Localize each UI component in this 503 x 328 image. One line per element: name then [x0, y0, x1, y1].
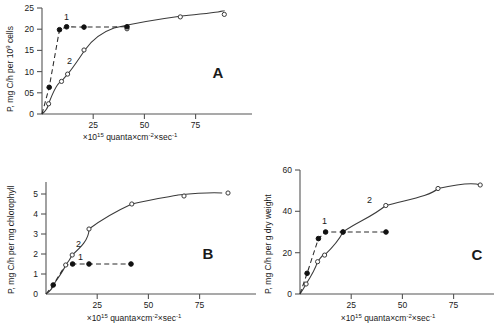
panel-b-ytick-5: 5 — [33, 189, 38, 199]
panel-a-xtick-50: 50 — [140, 120, 150, 130]
panel-a-curve-1-line — [42, 27, 127, 114]
x-title-mid: quanta×cm — [362, 313, 407, 323]
panel-a-ytick-05: 05 — [25, 88, 35, 98]
panel-b-curve-1-line — [46, 264, 131, 294]
panel-a-ytick-10: 10 — [25, 67, 35, 77]
panel-c-y-ticks — [295, 170, 300, 294]
x-title-mid: quanta×cm — [104, 132, 149, 142]
panel-b-x-ticks — [97, 294, 199, 299]
x-title-prefix: ×10 — [83, 132, 98, 142]
panel-b-letter: B — [203, 245, 214, 262]
panel-c-curve-1-points — [305, 230, 389, 276]
panel-b-y-ticks — [41, 194, 46, 274]
panel-a: 0 05 10 15 20 25 25 50 75 ×1015 quanta×c… — [0, 0, 260, 148]
panel-a-curve-2-points — [47, 12, 227, 106]
panel-c-ytick-60: 60 — [283, 165, 293, 175]
panel-c-xtick-50: 50 — [398, 300, 408, 310]
panel-a-curve-label-2: 2 — [67, 56, 72, 66]
panel-b-curve-2-line — [46, 193, 222, 294]
panel-c-ytick-40: 40 — [283, 206, 293, 216]
panel-b-ytick-3: 3 — [33, 229, 38, 239]
panel-a-curve-label-1: 1 — [64, 12, 69, 22]
figure-photosynthesis-light-curves: 0 05 10 15 20 25 25 50 75 ×1015 quanta×c… — [0, 0, 503, 328]
panel-c-ytick-0: 0 — [287, 289, 292, 299]
panel-c-curve-2-line — [300, 184, 480, 294]
panel-b-curve-label-2: 2 — [76, 239, 81, 249]
panel-c-curve-label-1: 1 — [322, 216, 327, 226]
x-title-mid: quanta×cm — [108, 313, 153, 323]
x-title-prefix: ×10 — [87, 313, 102, 323]
panel-b-xtick-50: 50 — [144, 300, 154, 310]
panel-a-ytick-15: 15 — [25, 45, 35, 55]
y-title-tail: cells — [5, 26, 15, 45]
x-title-exp3: -1 — [172, 132, 178, 138]
x-title-exp3: -1 — [430, 313, 436, 319]
x-title-exp3: -1 — [176, 313, 182, 319]
panel-c-x-axis-title: ×1015 quanta×cm-2×sec-1 — [341, 313, 436, 324]
panel-a-x-axis-title: ×1015 quanta×cm-2×sec-1 — [83, 132, 178, 143]
panel-c: 0 20 40 60 25 50 75 ×1015 quanta×cm-2×se… — [262, 160, 503, 328]
panel-b: 0 1 2 3 4 5 25 50 75 ×1015 quanta×cm-2×s… — [0, 160, 268, 328]
panel-b-curve-label-1: 1 — [78, 252, 83, 262]
x-title-prefix: ×10 — [341, 313, 356, 323]
panel-b-y-axis-title: P, mg C/h per mg chlorophyll — [6, 185, 16, 294]
panel-b-xtick-25: 25 — [92, 300, 102, 310]
panel-c-curve-2-points — [304, 183, 482, 286]
panel-b-ytick-4: 4 — [33, 209, 38, 219]
panel-c-letter: C — [472, 246, 483, 263]
panel-a-y-ticks — [37, 8, 42, 114]
panel-b-ytick-0: 0 — [33, 289, 38, 299]
panel-a-x-ticks — [93, 114, 195, 119]
panel-a-xtick-75: 75 — [191, 120, 201, 130]
panel-a-ytick-20: 20 — [25, 24, 35, 34]
x-title-mid2: ×sec — [412, 313, 431, 323]
panel-c-y-axis-title: P, mg C/h per g dry weight — [263, 194, 273, 294]
panel-c-x-ticks — [351, 294, 453, 299]
panel-c-curve-label-2: 2 — [367, 195, 372, 205]
x-title-mid2: ×sec — [158, 313, 177, 323]
panel-b-ytick-2: 2 — [33, 249, 38, 259]
panel-a-ytick-25: 25 — [25, 3, 35, 13]
panel-b-ytick-1: 1 — [33, 269, 38, 279]
panel-a-letter: A — [213, 64, 224, 81]
panel-a-xtick-25: 25 — [88, 120, 98, 130]
panel-c-curve-1-line — [300, 232, 386, 294]
x-title-mid2: ×sec — [154, 132, 173, 142]
panel-b-x-axis-title: ×1015 quanta×cm-2×sec-1 — [87, 313, 182, 324]
panel-a-y-axis-title: P, mg C/h per 109 cells — [5, 26, 16, 112]
y-title-main: P, mg C/h per 10 — [5, 49, 15, 112]
panel-a-ytick-0: 0 — [29, 109, 34, 119]
panel-b-xtick-75: 75 — [195, 300, 205, 310]
panel-c-xtick-25: 25 — [346, 300, 356, 310]
panel-c-ytick-20: 20 — [283, 248, 293, 258]
panel-a-curve-1-points — [47, 25, 129, 90]
panel-c-xtick-75: 75 — [449, 300, 459, 310]
